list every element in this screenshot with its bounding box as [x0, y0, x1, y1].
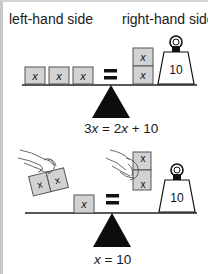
top-left-blocks: x x x: [25, 67, 93, 84]
x-block-label: x: [141, 153, 146, 164]
bottom-weight-10-icon: 10: [159, 164, 195, 212]
x-block-label: x: [80, 198, 87, 210]
top-equation: 3x = 2x + 10: [84, 121, 158, 136]
top-scale: x x x x x 10: [22, 36, 197, 118]
left-hand-icon: [18, 150, 56, 174]
bottom-fulcrum-icon: [93, 213, 131, 247]
top-equals-icon: [104, 69, 117, 80]
top-fulcrum-icon: [92, 85, 130, 118]
bottom-equation: x = 10: [94, 252, 131, 267]
top-right-blocks: x x: [133, 48, 153, 84]
x-block-label: x: [79, 70, 86, 82]
x-block-label: x: [139, 69, 146, 81]
x-block-label: x: [141, 179, 146, 190]
bottom-equals-icon: [106, 194, 119, 205]
right-hand-removing-blocks: x x: [133, 152, 151, 190]
balance-diagram: x x x x x 10: [0, 0, 208, 274]
x-block-label: x: [31, 70, 38, 82]
weight-label: 10: [170, 191, 184, 205]
bottom-scale: x 10 x x: [18, 150, 197, 247]
x-block-label: x: [55, 70, 62, 82]
weight-label: 10: [169, 63, 183, 77]
x-block-label: x: [139, 51, 146, 63]
top-weight-10-icon: 10: [158, 36, 194, 84]
